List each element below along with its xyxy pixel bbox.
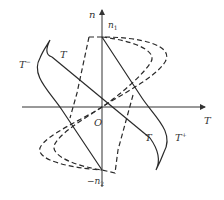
torque-label-upper: T xyxy=(60,49,68,60)
speed-torque-diagram: n T O n1 −n2 T T T− T+ xyxy=(0,0,224,200)
curve-t-plus xyxy=(102,37,167,170)
curve-t-minus xyxy=(37,40,102,170)
vertical-axis-label: n xyxy=(89,9,95,20)
dashed-curve-inner xyxy=(54,37,152,170)
origin-label: O xyxy=(94,117,102,128)
n1-label: n1 xyxy=(108,20,118,31)
t-minus-label: T− xyxy=(19,58,31,70)
horizontal-axis-label: T xyxy=(204,115,212,126)
dashed-left-vertical xyxy=(70,37,89,118)
t-plus-label: T+ xyxy=(175,131,187,143)
dashed-curve-outer xyxy=(40,37,167,170)
